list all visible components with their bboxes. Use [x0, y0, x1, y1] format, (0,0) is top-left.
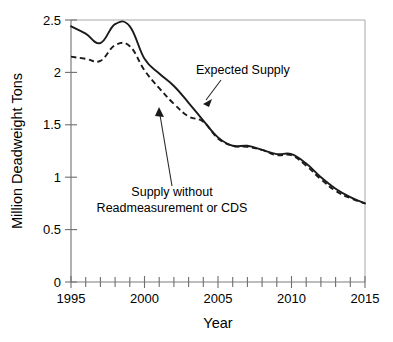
x-axis-ticks — [71, 276, 365, 288]
y-tick-label-1.5: 1.5 — [43, 117, 61, 132]
series-group — [71, 21, 365, 203]
x-axis: 1995 2000 2005 2010 2015 Year — [57, 276, 380, 331]
y-axis: 2.5 2 1.5 1 0.5 0 Million Deadweight Ton… — [9, 13, 77, 290]
annotation-expected-supply-leader — [206, 80, 221, 100]
y-axis-title: Million Deadweight Tons — [9, 73, 25, 229]
x-tick-label-2005: 2005 — [204, 291, 233, 306]
x-tick-label-2010: 2010 — [277, 291, 306, 306]
x-axis-title: Year — [203, 315, 232, 331]
annotation-supply-without: Supply without Readmeasurement or CDS — [97, 107, 248, 215]
annotation-supply-without-label-line2: Readmeasurement or CDS — [97, 201, 248, 215]
x-tick-label-2015: 2015 — [351, 291, 380, 306]
y-tick-label-0.5: 0.5 — [43, 222, 61, 237]
y-tick-label-2.5: 2.5 — [43, 13, 61, 28]
annotation-supply-without-arrow-icon — [155, 107, 164, 117]
series-expected-supply — [71, 21, 365, 203]
chart-figure: 2.5 2 1.5 1 0.5 0 Million Deadweight Ton… — [0, 0, 393, 342]
annotation-expected-supply-label: Expected Supply — [196, 63, 291, 77]
annotation-expected-supply: Expected Supply — [196, 63, 291, 107]
y-tick-label-1: 1 — [54, 170, 61, 185]
plot-frame — [71, 20, 365, 282]
annotation-expected-supply-arrow-icon — [203, 99, 212, 107]
x-tick-label-1995: 1995 — [57, 291, 86, 306]
annotation-supply-without-leader — [160, 115, 172, 186]
x-tick-label-2000: 2000 — [130, 291, 159, 306]
annotation-supply-without-label-line1: Supply without — [131, 185, 213, 199]
y-tick-label-2: 2 — [54, 65, 61, 80]
y-tick-label-0: 0 — [54, 275, 61, 290]
line-chart: 2.5 2 1.5 1 0.5 0 Million Deadweight Ton… — [0, 0, 393, 342]
